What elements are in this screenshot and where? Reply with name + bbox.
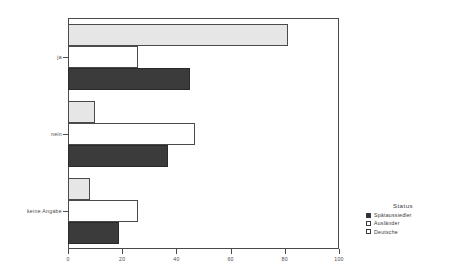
legend-label-auslaender: Ausländer <box>374 220 400 226</box>
legend-label-spaetaussiedler: Spätaussiedler <box>374 212 412 218</box>
bars-layer <box>68 18 339 249</box>
y-axis-label-0: ja <box>57 54 62 60</box>
bar-deutsche-2 <box>68 178 90 200</box>
legend-item-1[interactable]: Ausländer <box>366 220 446 226</box>
x-axis-label-3: 60 <box>227 256 233 262</box>
y-tick-0 <box>63 57 68 58</box>
y-axis-label-2: keine Angabe <box>27 208 62 214</box>
x-tick-4 <box>285 249 286 254</box>
bar-spaetaussiedler-0 <box>68 68 190 90</box>
x-axis-label-1: 20 <box>119 256 125 262</box>
bar-chart: janeinkeine Angabe 020406080100 Status S… <box>0 0 450 278</box>
x-tick-0 <box>68 249 69 254</box>
bar-auslaender-0 <box>68 46 138 68</box>
x-tick-3 <box>231 249 232 254</box>
legend-item-2[interactable]: Deutsche <box>366 229 446 235</box>
y-axis-label-1: nein <box>51 131 62 137</box>
x-axis-label-5: 100 <box>334 256 344 262</box>
x-axis-label-0: 0 <box>66 256 69 262</box>
bar-deutsche-1 <box>68 101 95 123</box>
x-axis-label-4: 80 <box>282 256 288 262</box>
bar-deutsche-0 <box>68 24 288 46</box>
legend: Status SpätaussiedlerAusländerDeutsche <box>366 202 446 237</box>
legend-swatch-icon-auslaender <box>366 221 371 226</box>
bar-auslaender-2 <box>68 200 138 222</box>
legend-items: SpätaussiedlerAusländerDeutsche <box>366 212 446 235</box>
legend-swatch-icon-spaetaussiedler <box>366 213 371 218</box>
legend-label-deutsche: Deutsche <box>374 229 398 235</box>
legend-item-0[interactable]: Spätaussiedler <box>366 212 446 218</box>
x-axis-label-2: 40 <box>173 256 179 262</box>
x-tick-5 <box>339 249 340 254</box>
y-tick-1 <box>63 134 68 135</box>
legend-swatch-icon-deutsche <box>366 229 371 234</box>
bar-auslaender-1 <box>68 123 195 145</box>
legend-title: Status <box>366 202 446 209</box>
x-tick-1 <box>122 249 123 254</box>
bar-spaetaussiedler-2 <box>68 222 119 244</box>
y-tick-2 <box>63 211 68 212</box>
x-tick-2 <box>176 249 177 254</box>
bar-spaetaussiedler-1 <box>68 145 168 167</box>
